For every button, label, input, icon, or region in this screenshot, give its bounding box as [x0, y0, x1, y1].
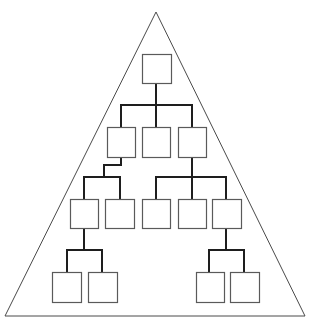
hierarchy-triangle-diagram [0, 0, 313, 323]
org-box-l1-c [179, 128, 207, 158]
org-box-l2-d [179, 200, 207, 229]
org-box-l3-b [89, 273, 118, 303]
org-box-root [143, 55, 172, 84]
org-box-l3-d [231, 273, 260, 303]
background [0, 0, 313, 323]
org-box-l1-a [108, 128, 136, 158]
org-box-l2-a [71, 200, 99, 229]
org-box-l1-b [143, 128, 171, 158]
org-box-l2-b [106, 200, 135, 229]
org-box-l2-e [213, 200, 242, 229]
org-box-l2-c [143, 200, 171, 229]
org-box-l3-c [197, 273, 225, 303]
diagram-canvas [0, 0, 313, 323]
org-box-l3-a [53, 273, 82, 303]
